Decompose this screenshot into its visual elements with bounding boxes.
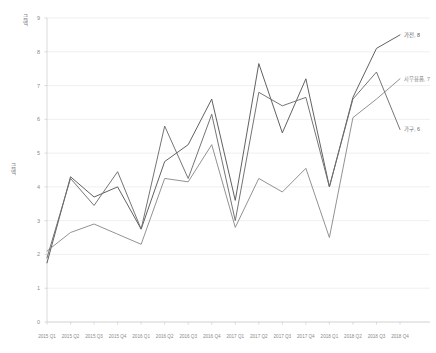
x-tick-label: 2018 Q3: [368, 334, 386, 339]
x-tick-label: 2016 Q4: [203, 334, 221, 339]
series-end-label-0: 가전, 8: [404, 31, 420, 39]
series-line-2: [47, 72, 400, 258]
series-lines: [47, 35, 400, 263]
axis-lines: [45, 18, 431, 325]
x-tick-label: 2018 Q2: [344, 334, 362, 339]
series-end-label-1: 사무용품, 7: [404, 75, 430, 83]
x-tick-label: 2018 Q1: [321, 334, 339, 339]
x-tick-label: 2016 Q1: [132, 334, 150, 339]
x-tick-label: 2018 Q4: [391, 334, 409, 339]
x-tick-label: 2015 Q4: [109, 334, 127, 339]
plot-area: [0, 0, 436, 353]
x-tick-label: 2015 Q3: [85, 334, 103, 339]
x-tick-label: 2017 Q3: [274, 334, 292, 339]
gridlines: [47, 18, 430, 322]
x-tick-label: 2015 Q1: [38, 334, 56, 339]
x-tick-label: 2017 Q1: [226, 334, 244, 339]
series-end-label-2: 가구, 6: [404, 125, 420, 133]
x-tick-label: 2015 Q2: [62, 334, 80, 339]
series-line-1: [47, 79, 400, 251]
x-tick-label: 2017 Q4: [297, 334, 315, 339]
x-tick-label: 2017 Q2: [250, 334, 268, 339]
line-chart: 금액 금액 9876543210 2015 Q12015 Q22015 Q320…: [0, 0, 436, 353]
x-tick-label: 2016 Q3: [179, 334, 197, 339]
x-tick-label: 2016 Q2: [156, 334, 174, 339]
